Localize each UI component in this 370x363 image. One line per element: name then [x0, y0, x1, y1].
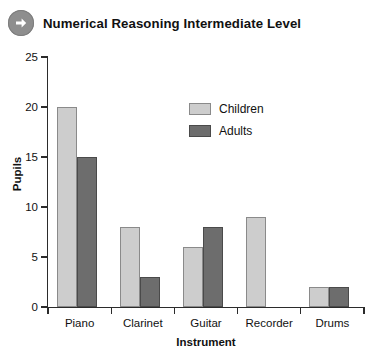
- bar-group-recorder: [238, 57, 301, 307]
- bar-group-clarinet: [111, 57, 174, 307]
- bar-piano-adults: [77, 157, 97, 307]
- y-tick-10: [41, 206, 48, 207]
- x-tick-3: [237, 307, 238, 314]
- x-tick-4: [300, 307, 301, 314]
- y-tick-5: [41, 256, 48, 257]
- y-tick-label-25: 25: [0, 51, 38, 63]
- x-label-drums: Drums: [293, 317, 370, 329]
- y-tick-label-10: 10: [0, 201, 38, 213]
- x-tick-0: [47, 307, 48, 314]
- legend-item-adults: Adults: [189, 120, 264, 142]
- y-tick-20: [41, 106, 48, 107]
- legend-item-children: Children: [189, 98, 264, 120]
- x-tick-2: [174, 307, 175, 314]
- bar-piano-children: [57, 107, 77, 307]
- x-tick-5: [363, 307, 364, 314]
- y-tick-label-15: 15: [0, 151, 38, 163]
- bar-clarinet-adults: [140, 277, 160, 307]
- y-tick-15: [41, 156, 48, 157]
- bar-clarinet-children: [120, 227, 140, 307]
- bar-group-piano: [48, 57, 111, 307]
- bar-group-guitar: [174, 57, 237, 307]
- y-tick-label-0: 0: [0, 301, 38, 313]
- chart-legend: Children Adults: [189, 98, 264, 142]
- bar-guitar-children: [183, 247, 203, 307]
- y-tick-25: [41, 56, 48, 57]
- bar-group-drums: [301, 57, 364, 307]
- y-tick-label-20: 20: [0, 101, 38, 113]
- legend-label-adults: Adults: [219, 124, 252, 138]
- legend-label-children: Children: [219, 102, 264, 116]
- bar-drums-children: [309, 287, 329, 307]
- bar-recorder-children: [246, 217, 266, 307]
- legend-swatch-children: [189, 103, 211, 115]
- x-axis-title: Instrument: [48, 336, 364, 348]
- bar-guitar-adults: [203, 227, 223, 307]
- bar-chart: Pupils 0510152025 PianoClarinetGuitarRec…: [0, 0, 370, 363]
- x-tick-1: [111, 307, 112, 314]
- y-tick-label-5: 5: [0, 251, 38, 263]
- plot-area: [48, 57, 364, 307]
- legend-swatch-adults: [189, 125, 211, 137]
- bar-drums-adults: [329, 287, 349, 307]
